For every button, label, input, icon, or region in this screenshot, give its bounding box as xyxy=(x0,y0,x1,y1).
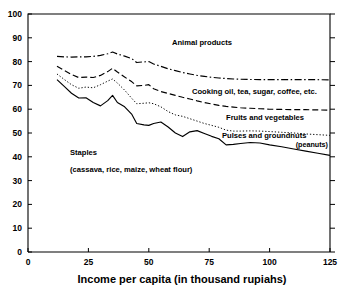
y-tick-label: 20 xyxy=(13,199,23,209)
line-chart-plot: 0102030405060708090100 0255075100125 Inc… xyxy=(0,0,342,289)
pulses-groundnuts-label: Pulses and groundnuts xyxy=(222,131,306,140)
y-axis-ticks-right xyxy=(330,14,335,252)
cooking-oil-label: Cooking oil, tea, sugar, coffee, etc. xyxy=(192,87,317,96)
x-axis-tick-labels: 0255075100125 xyxy=(26,257,338,267)
y-tick-label: 90 xyxy=(13,33,23,43)
series-curve-animal-products xyxy=(57,52,330,80)
x-axis-ticks xyxy=(28,248,330,252)
x-axis-title: Income per capita (in thousand rupiahs) xyxy=(77,273,286,285)
y-tick-label: 40 xyxy=(13,152,23,162)
pulses-groundnuts-sublabel: (peanuts) xyxy=(296,140,329,149)
fruits-vegetables-label: Fruits and vegetables xyxy=(226,113,304,122)
y-axis-tick-labels: 0102030405060708090100 xyxy=(8,9,22,257)
x-tick-label: 125 xyxy=(323,257,337,267)
x-tick-label: 75 xyxy=(204,257,214,267)
x-tick-label: 0 xyxy=(26,257,31,267)
y-tick-label: 60 xyxy=(13,104,23,114)
y-tick-label: 10 xyxy=(13,223,23,233)
y-tick-label: 30 xyxy=(13,176,23,186)
y-tick-label: 100 xyxy=(8,9,22,19)
animal-products-label: Animal products xyxy=(172,38,232,47)
x-tick-label: 100 xyxy=(263,257,277,267)
y-tick-label: 0 xyxy=(17,247,22,257)
y-tick-label: 50 xyxy=(13,128,23,138)
y-tick-label: 80 xyxy=(13,57,23,67)
staples-sublabel: (cassava, rice, maize, wheat flour) xyxy=(70,165,193,174)
y-tick-label: 70 xyxy=(13,80,23,90)
y-axis-ticks xyxy=(28,14,32,252)
x-tick-label: 25 xyxy=(84,257,94,267)
chart-figure: 0102030405060708090100 0255075100125 Inc… xyxy=(0,0,342,289)
staples-label: Staples xyxy=(70,148,97,157)
x-tick-label: 50 xyxy=(144,257,154,267)
